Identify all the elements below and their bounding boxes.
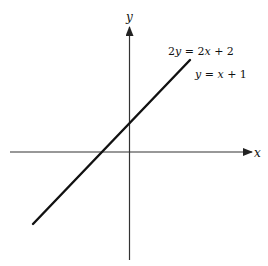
graph-line: [33, 60, 190, 224]
x-axis-label: x: [254, 146, 261, 160]
y-axis-label: y: [125, 10, 133, 24]
equation-label-1: 2y = 2x + 2: [168, 45, 234, 58]
coordinate-plane: y x 2y = 2x + 2 y = x + 1: [0, 0, 268, 266]
equation-label-2: y = x + 1: [194, 68, 247, 81]
